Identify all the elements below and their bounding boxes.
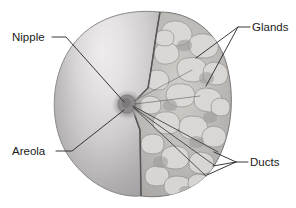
label-nipple: Nipple bbox=[12, 31, 45, 43]
label-glands: Glands bbox=[252, 21, 289, 33]
label-ducts: Ducts bbox=[250, 156, 280, 168]
breast-cross-section-illustration: Nipple Areola Glands Ducts bbox=[0, 0, 296, 208]
nipple-tip bbox=[122, 98, 131, 108]
label-areola: Areola bbox=[12, 145, 46, 157]
anatomy-figure: Nipple Areola Glands Ducts bbox=[0, 0, 296, 208]
